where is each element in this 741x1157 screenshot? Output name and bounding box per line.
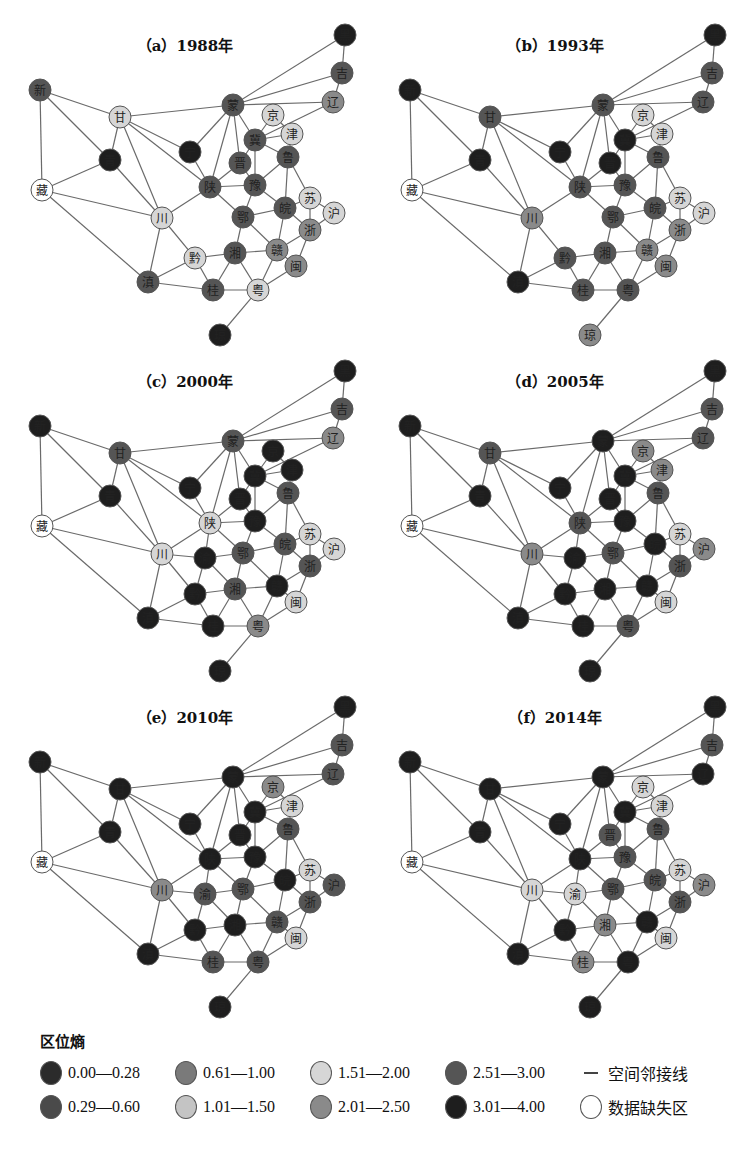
province-node: 吉 bbox=[331, 62, 353, 84]
legend-swatch-icon bbox=[40, 1061, 62, 1085]
svg-text:辽: 辽 bbox=[327, 96, 339, 110]
province-node: 京 bbox=[632, 440, 654, 462]
adjacency-edge bbox=[410, 426, 490, 453]
province-node: 甘 bbox=[479, 778, 501, 800]
legend-label: 0.00—0.28 bbox=[68, 1064, 140, 1082]
svg-text:宁: 宁 bbox=[554, 817, 566, 832]
svg-text:苏: 苏 bbox=[674, 528, 686, 542]
province-node: 渝 bbox=[564, 547, 586, 569]
adjacency-edge bbox=[410, 762, 490, 789]
svg-text:京: 京 bbox=[637, 781, 649, 795]
adjacency-edge bbox=[603, 774, 703, 777]
province-node: 湘 bbox=[224, 578, 246, 600]
province-node: 赣 bbox=[266, 575, 288, 597]
svg-text:京: 京 bbox=[637, 445, 649, 459]
province-node: 苏 bbox=[299, 187, 321, 209]
svg-text:沪: 沪 bbox=[328, 543, 340, 557]
province-node: 滇 bbox=[137, 271, 159, 293]
province-node: 黔 bbox=[554, 583, 576, 605]
province-node: 沪 bbox=[693, 538, 715, 560]
svg-text:晋: 晋 bbox=[234, 493, 246, 507]
panel-f: （f）2014年黑吉辽新甘青藏川渝宁蒙京津冀晋鲁陕豫皖苏沪浙鄂赣闽湘黔滇桂粤琼 bbox=[399, 696, 726, 1018]
svg-text:青: 青 bbox=[104, 154, 116, 168]
province-node: 晋 bbox=[229, 488, 251, 510]
svg-text:滇: 滇 bbox=[512, 276, 524, 290]
svg-text:吉: 吉 bbox=[336, 67, 348, 81]
adjacency-edge bbox=[120, 789, 190, 824]
province-node: 川 bbox=[521, 207, 543, 229]
adjacency-edge bbox=[40, 762, 120, 789]
svg-text:新: 新 bbox=[34, 755, 46, 770]
svg-text:吉: 吉 bbox=[706, 67, 718, 81]
province-node: 鲁 bbox=[647, 818, 669, 840]
province-node: 浙 bbox=[669, 891, 691, 913]
panel-title: （e）2010年 bbox=[137, 709, 233, 727]
svg-text:京: 京 bbox=[267, 781, 279, 795]
svg-text:青: 青 bbox=[104, 826, 116, 840]
svg-text:辽: 辽 bbox=[697, 768, 709, 782]
svg-text:晋: 晋 bbox=[604, 493, 616, 507]
legend-label: 2.51—3.00 bbox=[473, 1064, 545, 1082]
province-node: 苏 bbox=[299, 859, 321, 881]
province-node: 黑 bbox=[334, 360, 356, 382]
adjacency-edge bbox=[410, 90, 412, 190]
svg-text:浙: 浙 bbox=[304, 560, 316, 574]
adjacency-edge bbox=[410, 762, 412, 862]
adjacency-edge bbox=[42, 862, 148, 954]
province-node: 蒙 bbox=[222, 766, 244, 788]
svg-text:闽: 闽 bbox=[290, 260, 302, 274]
province-node: 鄂 bbox=[232, 542, 254, 564]
province-node: 黑 bbox=[334, 24, 356, 46]
adjacency-edge bbox=[412, 526, 532, 554]
province-node: 辽 bbox=[692, 763, 714, 785]
province-node: 冀 bbox=[614, 465, 636, 487]
province-node: 皖 bbox=[644, 533, 666, 555]
province-node: 赣 bbox=[636, 239, 658, 261]
svg-text:滇: 滇 bbox=[512, 612, 524, 626]
svg-text:沪: 沪 bbox=[328, 879, 340, 893]
province-node: 津 bbox=[281, 459, 303, 481]
province-node: 辽 bbox=[322, 91, 344, 113]
adjacency-edge bbox=[120, 105, 233, 117]
svg-text:赣: 赣 bbox=[271, 916, 283, 930]
svg-text:皖: 皖 bbox=[279, 538, 291, 552]
legend-label: 2.01—2.50 bbox=[338, 1098, 410, 1116]
province-node: 川 bbox=[151, 879, 173, 901]
adjacency-edge bbox=[120, 117, 162, 218]
svg-text:冀: 冀 bbox=[249, 806, 261, 820]
province-node: 琼 bbox=[209, 324, 231, 346]
svg-text:浙: 浙 bbox=[674, 896, 686, 910]
legend-swatch-icon bbox=[445, 1095, 467, 1119]
svg-text:辽: 辽 bbox=[327, 432, 339, 446]
svg-text:浙: 浙 bbox=[674, 224, 686, 238]
adjacency-edge bbox=[120, 789, 162, 890]
province-node: 桂 bbox=[572, 279, 594, 301]
adjacency-edge bbox=[40, 90, 110, 160]
adjacency-edge bbox=[110, 832, 162, 890]
province-node: 鄂 bbox=[602, 542, 624, 564]
svg-text:青: 青 bbox=[474, 826, 486, 840]
province-node: 鲁 bbox=[647, 146, 669, 168]
svg-text:鄂: 鄂 bbox=[607, 547, 619, 561]
svg-text:闽: 闽 bbox=[660, 932, 672, 946]
province-node: 沪 bbox=[693, 874, 715, 896]
svg-text:沪: 沪 bbox=[698, 207, 710, 221]
province-node: 黑 bbox=[704, 24, 726, 46]
province-node: 粤 bbox=[617, 951, 639, 973]
province-node: 闽 bbox=[285, 255, 307, 277]
province-node: 吉 bbox=[331, 734, 353, 756]
svg-text:浙: 浙 bbox=[304, 896, 316, 910]
svg-text:鲁: 鲁 bbox=[652, 823, 664, 837]
province-node: 豫 bbox=[614, 510, 636, 532]
svg-text:闽: 闽 bbox=[660, 260, 672, 274]
svg-text:津: 津 bbox=[656, 128, 668, 142]
svg-text:滇: 滇 bbox=[142, 948, 154, 962]
province-node: 豫 bbox=[244, 510, 266, 532]
legend-swatch-icon bbox=[40, 1095, 62, 1119]
svg-text:川: 川 bbox=[526, 548, 538, 562]
svg-text:湘: 湘 bbox=[229, 246, 241, 261]
svg-text:冀: 冀 bbox=[619, 806, 631, 820]
adjacency-edge bbox=[410, 426, 480, 496]
province-node: 陕 bbox=[199, 512, 221, 534]
legend-grid: 0.00—0.280.61—1.001.51—2.002.51—3.00空间邻接… bbox=[40, 1061, 720, 1119]
